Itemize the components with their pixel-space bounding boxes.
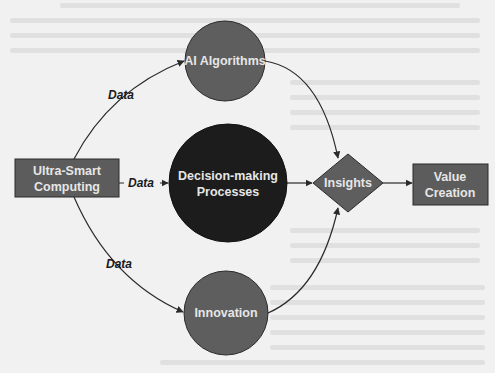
node-value-creation: Value Creation bbox=[413, 164, 488, 205]
node-ai-algorithms: AI Algorithms bbox=[184, 21, 266, 101]
node-label: Insights bbox=[324, 176, 372, 190]
node-label: Innovation bbox=[194, 306, 257, 320]
node-label: Decision-making bbox=[178, 169, 278, 183]
node-innovation: Innovation bbox=[184, 271, 268, 355]
node-label: Value bbox=[434, 170, 467, 184]
edge-label-data-mid: Data bbox=[128, 176, 154, 190]
node-label: AI Algorithms bbox=[184, 54, 266, 68]
node-label: Creation bbox=[425, 186, 476, 200]
flow-diagram: Data Data Data Ultra-Smart Computing AI … bbox=[0, 0, 495, 373]
edge-ultra-to-ai bbox=[74, 61, 184, 159]
edge-label-data-top: Data bbox=[108, 88, 134, 102]
edge-label-data-bottom: Data bbox=[106, 257, 132, 271]
node-insights: Insights bbox=[313, 154, 383, 212]
node-ultra-smart-computing: Ultra-Smart Computing bbox=[15, 159, 119, 197]
node-decision-making-processes: Decision-making Processes bbox=[169, 124, 287, 242]
edge-ai-to-insights bbox=[265, 61, 338, 158]
edge-ultra-to-innovation bbox=[74, 197, 183, 312]
edge-innovation-to-insights bbox=[268, 208, 338, 313]
node-label: Computing bbox=[34, 180, 100, 194]
node-label: Ultra-Smart bbox=[33, 164, 102, 178]
node-label: Processes bbox=[197, 185, 260, 199]
